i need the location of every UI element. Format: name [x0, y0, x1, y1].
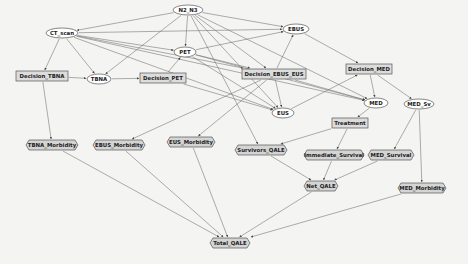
- edge-MED_Survival-to-Net_QALE: [335, 161, 378, 180]
- edge-Treatment-to-Survivors_QALE: [281, 129, 331, 144]
- edge-Decision_PET-to-EUS: [184, 84, 273, 110]
- node-decision-tbna[interactable]: Decision_TBNA: [16, 71, 68, 81]
- node-label: Net_QALE: [306, 183, 336, 190]
- edge-Decision_TBNA-to-TBNA_Morbidity: [43, 82, 51, 139]
- node-ct-scan[interactable]: CT_scan: [46, 28, 78, 38]
- node-label: Decision_TBNA: [20, 73, 66, 80]
- node-immediate-survival[interactable]: Immediate_Survival: [304, 150, 364, 160]
- edge-Survivors_QALE-to-Net_QALE: [271, 156, 311, 180]
- node-net-qale[interactable]: Net_QALE: [304, 181, 338, 191]
- node-med-survival[interactable]: MED_Survival: [368, 150, 414, 160]
- node-survivors-qale[interactable]: Survivors_QALE: [235, 145, 287, 155]
- node-eus-morbidity[interactable]: EUS_Morbidity: [167, 137, 215, 147]
- node-label: PET: [179, 49, 191, 55]
- node-label: EUS: [277, 110, 289, 116]
- node-label: Decision_EBUS_EUS: [244, 71, 303, 78]
- node-label: Treatment: [334, 120, 366, 126]
- edge-Decision_EBUS_EUS-to-MED: [295, 80, 365, 100]
- node-decision-ebus-eus[interactable]: Decision_EBUS_EUS: [242, 69, 306, 79]
- edge-EBUS-to-Decision_MED: [305, 34, 358, 63]
- node-label: Decision_PET: [143, 75, 183, 82]
- node-label: MED_Morbidity: [399, 185, 445, 192]
- node-ebus-morbidity[interactable]: EBUS_Morbidity: [93, 140, 145, 150]
- node-label: MED: [369, 100, 383, 106]
- edge-Decision_TBNA-to-TBNA: [69, 77, 86, 78]
- node-label: Decision_MED: [348, 66, 391, 73]
- node-label: TBNA: [91, 76, 108, 82]
- node-label: Immediate_Survival: [304, 152, 364, 159]
- edge-Decision_EBUS_EUS-to-EBUS: [277, 35, 293, 68]
- edge-TBNA_Morbidity-to-Total_QALE: [63, 151, 219, 237]
- node-med-sv[interactable]: MED_Sv: [404, 99, 434, 109]
- node-tbna[interactable]: TBNA: [87, 74, 111, 84]
- edge-EUS-to-Decision_MED: [291, 75, 357, 109]
- node-med[interactable]: MED: [364, 98, 388, 108]
- edge-Decision_MED-to-MED: [370, 75, 375, 97]
- node-label: N2_N3: [178, 7, 197, 14]
- node-treatment[interactable]: Treatment: [332, 118, 368, 128]
- edge-N2_N3-to-TBNA: [106, 15, 181, 73]
- edge-Immediate_Survival-to-Net_QALE: [324, 161, 332, 180]
- node-label: EUS_Morbidity: [169, 139, 213, 146]
- edge-Treatment-to-Immediate_Survival: [337, 129, 347, 149]
- edge-MED_Sv-to-MED_Morbidity: [419, 110, 422, 182]
- node-label: CT_scan: [50, 30, 74, 37]
- nodes-layer: N2_N3CT_scanEBUSPETDecision_TBNATBNADeci…: [16, 5, 446, 248]
- node-pet[interactable]: PET: [174, 47, 196, 57]
- node-n2-n3[interactable]: N2_N3: [173, 5, 203, 15]
- node-label: MED_Sv: [407, 101, 431, 108]
- edge-CT_scan-to-Decision_TBNA: [45, 39, 59, 70]
- edge-Decision_PET-to-PET: [168, 58, 180, 72]
- edge-Decision_MED-to-MED_Sv: [378, 75, 412, 99]
- node-ebus[interactable]: EBUS: [283, 24, 309, 34]
- node-tbna-morbidity[interactable]: TBNA_Morbidity: [26, 140, 78, 150]
- node-eus[interactable]: EUS: [272, 108, 294, 118]
- node-med-morbidity[interactable]: MED_Morbidity: [398, 183, 446, 193]
- edge-N2_N3-to-Decision_EBUS_EUS: [195, 15, 266, 68]
- edge-MED-to-Treatment: [358, 108, 370, 117]
- edge-CT_scan-to-EBUS: [79, 29, 282, 32]
- edge-CT_scan-to-TBNA: [67, 39, 95, 74]
- edge-EUS_Morbidity-to-Total_QALE: [193, 148, 227, 237]
- edge-Decision_EBUS_EUS-to-EBUS_Morbidity: [132, 80, 261, 139]
- edge-CT_scan-to-PET: [78, 35, 174, 50]
- node-label: MED_Survival: [371, 152, 412, 159]
- edge-PET-to-Decision_EBUS_EUS: [196, 55, 250, 68]
- edge-PET-to-EUS: [193, 57, 276, 109]
- node-label: TBNA_Morbidity: [28, 142, 77, 149]
- node-decision-pet[interactable]: Decision_PET: [140, 73, 186, 83]
- edge-CT_scan-to-Decision_EBUS_EUS: [77, 36, 243, 68]
- edge-N2_N3-to-Survivors_QALE: [191, 16, 258, 144]
- node-label: Survivors_QALE: [237, 147, 285, 154]
- edge-PET-to-EBUS: [196, 32, 283, 50]
- edge-N2_N3-to-EBUS: [202, 13, 283, 27]
- node-decision-med[interactable]: Decision_MED: [346, 64, 392, 74]
- edge-Decision_EBUS_EUS-to-EUS_Morbidity: [198, 80, 266, 136]
- edge-CT_scan-to-MED: [76, 36, 364, 100]
- node-total-qale[interactable]: Total_QALE: [210, 238, 250, 248]
- node-label: EBUS: [288, 26, 304, 32]
- edge-MED_Sv-to-MED_Survival: [394, 110, 415, 149]
- node-label: Total_QALE: [213, 240, 247, 247]
- influence-diagram-canvas: N2_N3CT_scanEBUSPETDecision_TBNATBNADeci…: [0, 0, 468, 264]
- node-label: EBUS_Morbidity: [95, 142, 143, 149]
- edge-N2_N3-to-CT_scan: [77, 13, 174, 31]
- edge-Decision_EBUS_EUS-to-EUS: [275, 80, 281, 107]
